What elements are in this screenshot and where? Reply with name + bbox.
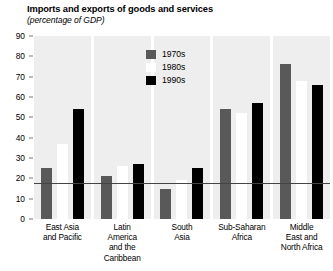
- y-tick-label: 30: [16, 154, 25, 162]
- x-axis-label-line: Sub-Saharan: [213, 222, 270, 232]
- x-axis-label-line: and Pacific: [34, 232, 91, 242]
- y-tick-mark: [29, 178, 33, 179]
- x-axis-labels: East Asiaand PacificLatinAmericaand theC…: [34, 222, 330, 263]
- bar: [296, 81, 307, 219]
- x-axis-label-line: North Africa: [273, 242, 330, 252]
- y-tick-label: 70: [16, 72, 25, 80]
- chart-subtitle: (percentage of GDP): [27, 15, 327, 26]
- y-tick-label: 90: [16, 32, 25, 40]
- x-axis-label-line: Caribbean: [94, 253, 151, 263]
- y-tick-label: 0: [20, 215, 25, 223]
- x-axis-label-line: Middle: [273, 222, 330, 232]
- legend-label: 1970s: [162, 50, 185, 59]
- chart-title: Imports and exports of goods and service…: [27, 3, 327, 15]
- x-axis-label: East Asiaand Pacific: [34, 222, 91, 263]
- bar-group: [213, 36, 270, 219]
- x-axis-label-line: East Asia: [34, 222, 91, 232]
- legend-item: 1980s: [146, 61, 216, 74]
- bar: [220, 109, 231, 219]
- y-tick-label: 10: [16, 194, 25, 202]
- bar: [252, 103, 263, 219]
- y-tick-mark: [29, 76, 33, 77]
- y-tick-label: 60: [16, 93, 25, 101]
- bar: [236, 113, 247, 219]
- y-tick-mark: [29, 219, 33, 220]
- legend-label: 1980s: [162, 63, 185, 72]
- y-tick-mark: [29, 36, 33, 37]
- x-axis-label-line: Asia: [154, 232, 211, 242]
- x-axis-label-line: America: [94, 232, 151, 242]
- bar-group: [34, 36, 91, 219]
- y-tick-label: 80: [16, 52, 25, 60]
- x-axis-label-line: East and: [273, 232, 330, 242]
- bar: [41, 168, 52, 219]
- legend-swatch-icon: [146, 76, 156, 85]
- y-tick-label: 40: [16, 133, 25, 141]
- y-tick-label: 50: [16, 113, 25, 121]
- y-axis: 9080706050403020100: [0, 36, 34, 219]
- legend-swatch-icon: [146, 63, 156, 72]
- legend: 1970s1980s1990s: [146, 48, 216, 87]
- x-axis-label-line: Latin: [94, 222, 151, 232]
- x-axis-label: LatinAmericaand theCaribbean: [94, 222, 151, 263]
- y-tick-mark: [29, 137, 33, 138]
- x-axis-baseline: [34, 183, 330, 184]
- y-tick-mark: [29, 56, 33, 57]
- bar: [176, 180, 187, 219]
- bar: [57, 144, 68, 219]
- x-axis-label: MiddleEast andNorth Africa: [273, 222, 330, 263]
- y-tick-mark: [29, 198, 33, 199]
- bar: [312, 85, 323, 219]
- title-block: Imports and exports of goods and service…: [27, 3, 327, 26]
- bar: [133, 164, 144, 219]
- y-tick-mark: [29, 97, 33, 98]
- x-axis-label-line: South: [154, 222, 211, 232]
- legend-item: 1990s: [146, 74, 216, 87]
- bar: [117, 166, 128, 219]
- legend-label: 1990s: [162, 76, 185, 85]
- x-axis-label: Sub-SaharanAfrica: [213, 222, 270, 263]
- chart-figure: Imports and exports of goods and service…: [0, 0, 333, 271]
- bar: [192, 168, 203, 219]
- bar: [160, 189, 171, 220]
- bar-group: [273, 36, 330, 219]
- bar: [280, 64, 291, 219]
- y-tick-mark: [29, 158, 33, 159]
- bar: [73, 109, 84, 219]
- legend-item: 1970s: [146, 48, 216, 61]
- x-axis-label: SouthAsia: [154, 222, 211, 263]
- legend-swatch-icon: [146, 50, 156, 59]
- y-tick-label: 20: [16, 174, 25, 182]
- x-axis-label-line: and the: [94, 242, 151, 252]
- y-tick-mark: [29, 117, 33, 118]
- x-axis-label-line: Africa: [213, 232, 270, 242]
- bar-group: [94, 36, 151, 219]
